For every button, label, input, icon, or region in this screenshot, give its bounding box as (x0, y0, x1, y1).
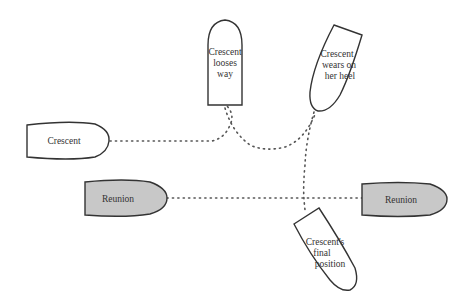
boat-label: final (313, 248, 331, 258)
boat-label: way (217, 69, 233, 79)
boat-crescent-final: Crescent's final position (294, 208, 357, 290)
boat-label: Crescent (320, 49, 354, 59)
boat-crescent-wears: Crescent wears on her heel (310, 25, 362, 111)
boat-label: Crescent (208, 47, 242, 57)
boat-label: Reunion (385, 195, 417, 205)
boat-label: position (315, 259, 346, 269)
boat-crescent-looses-way: Crescent looses way (208, 20, 242, 105)
boat-reunion-right: Reunion (362, 183, 447, 217)
crescent-track-looses-way-to-wears (225, 108, 316, 149)
boat-crescent-start: Crescent (27, 122, 109, 159)
boat-label: wears on (322, 60, 356, 70)
boat-reunion-left: Reunion (85, 180, 167, 216)
crescent-track-to-looses-way (110, 106, 232, 141)
boat-label: Crescent (47, 136, 81, 146)
boat-label: Crescent's (306, 237, 345, 247)
boat-label: her heel (325, 71, 356, 81)
boat-label: Reunion (102, 194, 134, 204)
boat-label: looses (213, 58, 237, 68)
manoeuvre-diagram: Crescent Crescent looses way Crescent we… (0, 0, 473, 307)
